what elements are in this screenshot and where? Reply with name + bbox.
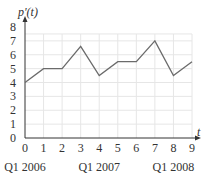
data-line: [25, 41, 192, 83]
quarter-label: Q1 2008: [153, 160, 195, 174]
y-tick-label: 8: [10, 20, 16, 34]
y-tick-label: 0: [10, 131, 16, 145]
x-tick-label: 1: [41, 141, 47, 155]
y-axis-label: p'(t): [17, 5, 38, 19]
x-tick-label: 2: [59, 141, 65, 155]
y-tick-label: 5: [10, 62, 16, 76]
x-tick-label: 6: [133, 141, 139, 155]
x-tick-label: 7: [152, 141, 158, 155]
y-tick-label: 1: [10, 117, 16, 131]
y-tick-label: 4: [10, 76, 16, 90]
y-tick-label: 3: [10, 89, 16, 103]
x-tick-labels: 0123456789: [22, 141, 195, 155]
quarter-label: Q1 2007: [78, 160, 120, 174]
x-axis-label: t: [197, 125, 201, 139]
y-tick-labels: 012345678: [10, 20, 16, 145]
y-tick-label: 2: [10, 103, 16, 117]
x-tick-label: 8: [170, 141, 176, 155]
x-tick-label: 0: [22, 141, 28, 155]
x-tick-label: 4: [96, 141, 102, 155]
x-tick-label: 9: [189, 141, 195, 155]
x-tick-label: 3: [78, 141, 84, 155]
grid-lines: [25, 34, 192, 138]
quarter-labels: Q1 2006Q1 2007Q1 2008: [4, 160, 194, 174]
y-tick-label: 6: [10, 48, 16, 62]
y-tick-label: 7: [10, 34, 16, 48]
x-tick-label: 5: [115, 141, 121, 155]
quarter-label: Q1 2006: [4, 160, 46, 174]
axes: [23, 16, 202, 141]
line-chart: 012345678 0123456789 Q1 2006Q1 2007Q1 20…: [0, 0, 209, 177]
